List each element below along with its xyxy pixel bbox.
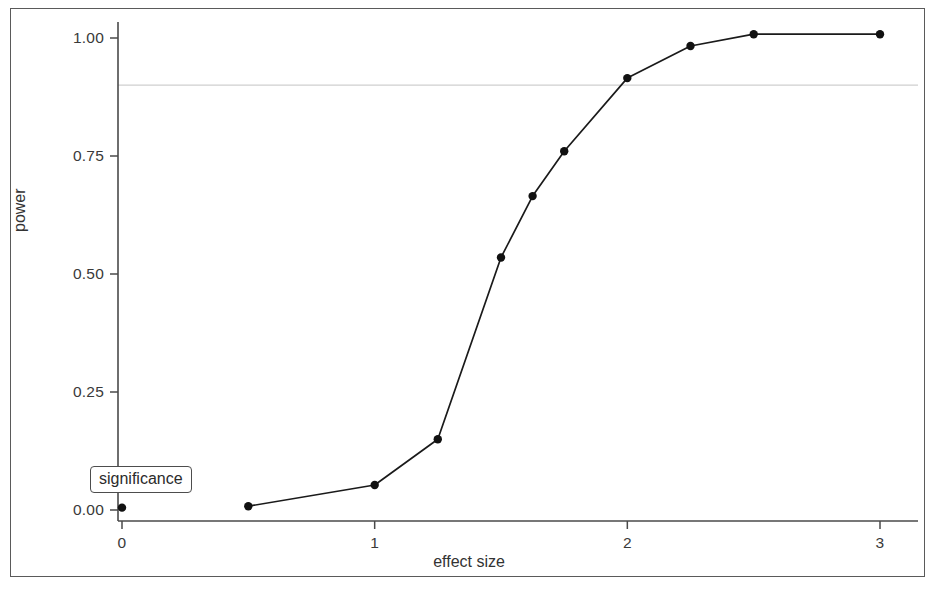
x-tick-label: 1 [370, 534, 379, 552]
y-tick-label: 1.00 [73, 29, 104, 47]
x-tick-label: 2 [623, 534, 632, 552]
power-curve-figure: 0.000.250.500.751.00 0123 power effect s… [0, 0, 938, 600]
y-tick-label: 0.50 [73, 265, 104, 283]
y-tick-label: 0.25 [73, 383, 104, 401]
y-tick-label: 0.00 [73, 501, 104, 519]
x-tick-label: 0 [118, 534, 127, 552]
x-axis-title: effect size [0, 553, 938, 571]
y-tick-label: 0.75 [73, 147, 104, 165]
significance-annotation-box: significance [90, 466, 192, 493]
x-tick-label: 3 [876, 534, 885, 552]
y-axis-title: power [11, 188, 29, 232]
